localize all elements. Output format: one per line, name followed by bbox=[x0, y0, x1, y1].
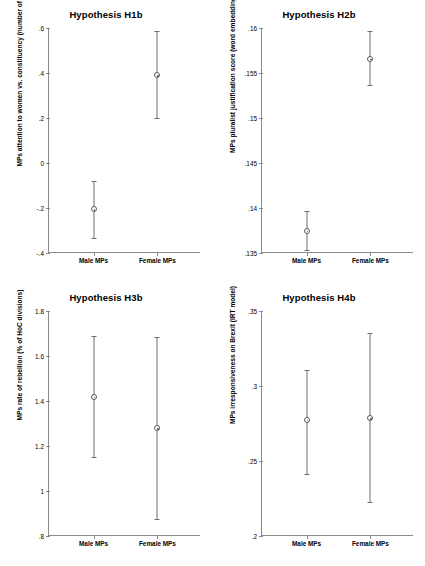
error-bar-cap bbox=[368, 333, 373, 334]
panel-h1b: Hypothesis H1b MPs attention to women vs… bbox=[0, 0, 212, 283]
y-tick bbox=[46, 401, 50, 402]
y-tick bbox=[46, 163, 50, 164]
error-bar-cap bbox=[304, 370, 309, 371]
y-tick-label: .8 bbox=[39, 533, 44, 540]
y-tick-label: .135 bbox=[245, 250, 257, 257]
y-tick bbox=[259, 163, 263, 164]
x-tick-label: Female MPs bbox=[352, 257, 389, 264]
error-bar-cap bbox=[368, 502, 373, 503]
y-tick-label: 1 bbox=[40, 488, 44, 495]
error-bar-cap bbox=[91, 181, 96, 182]
data-point-marker bbox=[91, 394, 97, 400]
data-point-marker bbox=[91, 206, 97, 212]
x-tick bbox=[307, 252, 308, 256]
y-tick-label: .6 bbox=[39, 25, 44, 32]
error-bar-cap bbox=[304, 250, 309, 251]
y-axis-line bbox=[48, 311, 49, 536]
error-bar-cap bbox=[155, 31, 160, 32]
y-tick-label: .25 bbox=[248, 458, 257, 465]
y-tick bbox=[259, 311, 263, 312]
data-point-marker bbox=[154, 425, 160, 431]
y-tick-label: -.4 bbox=[37, 250, 44, 257]
y-tick-label: .35 bbox=[248, 308, 257, 315]
error-bar-cap bbox=[304, 474, 309, 475]
y-tick-label: 0 bbox=[40, 160, 44, 167]
y-axis-line bbox=[48, 28, 49, 253]
y-axis-title: MPs pluralist justification score (word … bbox=[229, 0, 237, 172]
x-axis-line bbox=[48, 252, 200, 253]
y-tick-label: .155 bbox=[245, 70, 257, 77]
y-tick bbox=[259, 73, 263, 74]
x-tick bbox=[307, 535, 308, 539]
y-tick-label: .145 bbox=[245, 160, 257, 167]
x-tick-label: Female MPs bbox=[352, 540, 389, 547]
error-bar-cap bbox=[155, 118, 160, 119]
y-tick-label: .2 bbox=[39, 115, 44, 122]
y-tick bbox=[46, 356, 50, 357]
y-tick bbox=[46, 311, 50, 312]
y-tick bbox=[259, 208, 263, 209]
y-tick bbox=[46, 28, 50, 29]
data-point-marker bbox=[304, 417, 310, 423]
y-axis-title-wrap: MPs irresponsiveness on Brexit (IRT mode… bbox=[219, 311, 231, 529]
y-tick bbox=[46, 208, 50, 209]
x-tick-label: Female MPs bbox=[139, 540, 176, 547]
y-tick-label: 1.6 bbox=[35, 353, 44, 360]
y-axis-title: MPs rate of rebellion (% of HoC division… bbox=[16, 255, 24, 455]
error-bar-cap bbox=[91, 336, 96, 337]
y-axis-line bbox=[261, 28, 262, 253]
y-tick bbox=[46, 73, 50, 74]
x-axis-line bbox=[261, 252, 413, 253]
error-bar-cap bbox=[91, 238, 96, 239]
panel-title: Hypothesis H2b bbox=[213, 9, 425, 20]
x-tick-label: Male MPs bbox=[292, 540, 321, 547]
x-tick-label: Male MPs bbox=[79, 257, 108, 264]
y-tick bbox=[46, 253, 50, 254]
y-tick-label: .2 bbox=[252, 533, 257, 540]
data-point-marker bbox=[367, 56, 373, 62]
x-tick bbox=[94, 535, 95, 539]
x-tick-label: Male MPs bbox=[292, 257, 321, 264]
four-panel-error-bar-figure: Hypothesis H1b MPs attention to women vs… bbox=[0, 0, 425, 566]
panel-h3b: Hypothesis H3b MPs rate of rebellion (% … bbox=[0, 283, 212, 566]
y-tick-label: .16 bbox=[248, 25, 257, 32]
y-tick bbox=[259, 386, 263, 387]
x-tick bbox=[94, 252, 95, 256]
y-tick-label: 1.8 bbox=[35, 308, 44, 315]
y-tick-label: .14 bbox=[248, 205, 257, 212]
data-point-marker bbox=[154, 72, 160, 78]
error-bar-cap bbox=[91, 457, 96, 458]
x-tick bbox=[157, 252, 158, 256]
y-axis-title: MPs attention to women vs. constituency … bbox=[16, 0, 24, 172]
y-tick-label: 1.2 bbox=[35, 443, 44, 450]
error-bar-cap bbox=[155, 519, 160, 520]
x-tick bbox=[370, 252, 371, 256]
error-bar-cap bbox=[155, 337, 160, 338]
y-axis-title: MPs irresponsiveness on Brexit (IRT mode… bbox=[229, 255, 237, 455]
plot-area: 1.81.61.41.21.8Male MPsFemale MPs bbox=[48, 311, 200, 536]
y-tick bbox=[46, 491, 50, 492]
y-axis-title-wrap: MPs attention to women vs. constituency … bbox=[6, 28, 18, 246]
y-axis-line bbox=[261, 311, 262, 536]
y-tick bbox=[259, 28, 263, 29]
panel-h4b: Hypothesis H4b MPs irresponsiveness on B… bbox=[213, 283, 425, 566]
plot-area: .35.3.25.2Male MPsFemale MPs bbox=[261, 311, 413, 536]
y-tick-label: .15 bbox=[248, 115, 257, 122]
y-axis-title-wrap: MPs pluralist justification score (word … bbox=[219, 28, 231, 246]
x-axis-line bbox=[48, 535, 200, 536]
x-axis-line bbox=[261, 535, 413, 536]
panel-title: Hypothesis H1b bbox=[0, 9, 212, 20]
y-tick-label: .3 bbox=[252, 383, 257, 390]
error-bar-cap bbox=[304, 211, 309, 212]
error-bar-cap bbox=[368, 31, 373, 32]
y-tick bbox=[46, 118, 50, 119]
x-tick-label: Female MPs bbox=[139, 257, 176, 264]
y-tick bbox=[259, 118, 263, 119]
y-tick-label: .4 bbox=[39, 70, 44, 77]
panel-h2b: Hypothesis H2b MPs pluralist justificati… bbox=[213, 0, 425, 283]
plot-area: .16.155.15.145.14.135Male MPsFemale MPs bbox=[261, 28, 413, 253]
y-axis-title-wrap: MPs rate of rebellion (% of HoC division… bbox=[6, 311, 18, 529]
data-point-marker bbox=[367, 415, 373, 421]
y-tick bbox=[46, 446, 50, 447]
y-tick bbox=[259, 253, 263, 254]
